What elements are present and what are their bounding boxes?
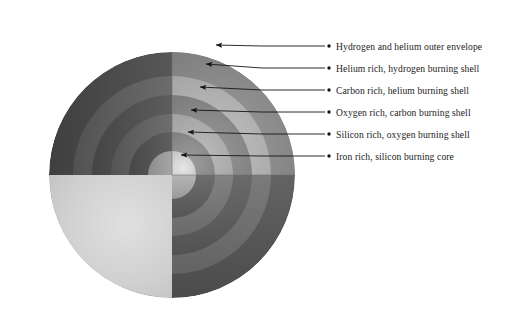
star-interior-diagram: Hydrogen and helium outer envelopeHelium… bbox=[0, 0, 509, 329]
bullet-icon-hydrogen-helium-outer-envelope bbox=[327, 44, 330, 47]
shell-label-silicon-rich-oxygen-burning-shell: Silicon rich, oxygen burning shell bbox=[336, 129, 470, 140]
bullet-icon-helium-rich-hydrogen-burning-shell bbox=[327, 66, 330, 69]
shell-label-helium-rich-hydrogen-burning-shell: Helium rich, hydrogen burning shell bbox=[336, 63, 479, 74]
shell-label-oxygen-rich-carbon-burning-shell: Oxygen rich, carbon burning shell bbox=[336, 107, 471, 118]
shell-label-hydrogen-helium-outer-envelope: Hydrogen and helium outer envelope bbox=[336, 41, 482, 52]
bullet-icon-iron-rich-silicon-burning-core bbox=[327, 154, 330, 157]
bullet-icon-carbon-rich-helium-burning-shell bbox=[327, 88, 330, 91]
shell-label-iron-rich-silicon-burning-core: Iron rich, silicon burning core bbox=[336, 151, 454, 162]
shell-label-carbon-rich-helium-burning-shell: Carbon rich, helium burning shell bbox=[336, 85, 469, 96]
bullet-icon-oxygen-rich-carbon-burning-shell bbox=[327, 110, 330, 113]
bullet-icon-silicon-rich-oxygen-burning-shell bbox=[327, 132, 330, 135]
